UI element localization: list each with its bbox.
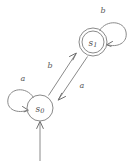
edge-label-s1-s0: a: [80, 81, 85, 90]
fsa-canvas: a b b a s0: [0, 0, 133, 164]
start-arrow: [37, 121, 44, 161]
state-s1[interactable]: s1: [79, 28, 107, 56]
state-s0-label: s0: [36, 104, 45, 115]
fsa-diagram: a b b a s0: [0, 0, 133, 164]
edge-label-s1-self: b: [100, 6, 105, 15]
state-s0[interactable]: s0: [27, 95, 53, 121]
transition-s0-to-s1-b: b: [47, 53, 76, 96]
arrowhead-s1-s0: [58, 93, 65, 100]
state-s1-label: s1: [89, 38, 98, 49]
arrowhead-s0-s1: [70, 53, 77, 60]
state-s1-label-sub: 1: [93, 41, 97, 49]
state-s0-label-sub: 0: [40, 107, 44, 115]
transition-s1-to-s0-a: a: [58, 57, 87, 101]
edge-path-s1-s0: [59, 57, 88, 100]
transition-s0-self-a: a: [8, 74, 34, 112]
edge-label-s0-self: a: [21, 74, 26, 83]
edge-label-s0-s1: b: [47, 61, 52, 70]
edge-path-s0-s1: [49, 54, 77, 96]
